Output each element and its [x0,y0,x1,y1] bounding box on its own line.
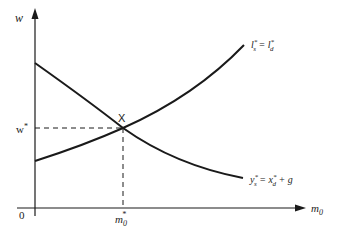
equilibrium-point-label: X [118,112,126,124]
goods-market-label: y*s = x*d + g [249,173,293,188]
x-axis-arrow-icon [295,205,306,212]
x-axis [17,205,306,212]
origin-label: 0 [19,209,25,221]
x-axis-label: m0 [311,202,323,217]
y-axis-label: w [15,11,23,25]
y-axis [32,8,39,216]
y-axis-arrow-icon [32,8,39,19]
w-star-label: w* [16,122,28,135]
equilibrium-diagram: w w* 0 m0 m0* X l*s = l*d y*s = x*d + g [0,0,338,234]
labour-market-label: l*s = l*d [251,38,275,53]
m-star-label: m0* [115,210,127,228]
labour-market-curve [35,45,244,161]
